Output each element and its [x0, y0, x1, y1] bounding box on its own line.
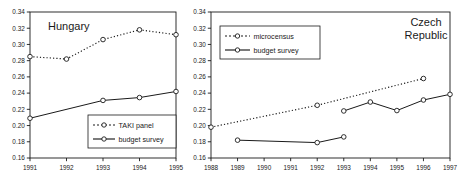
x-tick-label: 1996 [416, 164, 431, 171]
y-tick-label: 0.20 [193, 122, 206, 129]
x-axis: 1988198919901991199219931994199519961997 [204, 158, 458, 171]
chart-title: Hungary [48, 20, 90, 32]
legend-sample-marker [102, 137, 106, 141]
y-tick-label: 0.20 [12, 122, 25, 129]
legend-label: budget survey [119, 135, 165, 144]
data-point [137, 28, 142, 33]
y-tick-label: 0.16 [12, 154, 25, 161]
legend-sample-marker [235, 48, 239, 52]
chart-panel-hungary: 0.160.180.200.220.240.260.280.300.320.34… [0, 0, 184, 190]
y-tick-label: 0.30 [193, 41, 206, 48]
data-point [101, 37, 106, 42]
x-tick-label: 1995 [390, 164, 405, 171]
chart-title-text: Hungary [48, 20, 90, 32]
data-point [28, 116, 33, 121]
legend-sample-marker [102, 123, 106, 127]
chart-svg-czech-republic: 0.160.180.200.220.240.260.280.300.320.34… [178, 0, 458, 190]
y-tick-label: 0.26 [12, 73, 25, 80]
x-tick-label: 1994 [132, 164, 147, 171]
y-tick-label: 0.24 [193, 89, 206, 96]
y-tick-label: 0.22 [193, 106, 206, 113]
data-point [28, 54, 33, 59]
y-tick-label: 0.32 [193, 25, 206, 32]
data-point [395, 108, 400, 113]
data-point [315, 140, 320, 145]
chart-title: CzechRepublic [405, 16, 448, 41]
data-point [209, 125, 214, 130]
y-axis: 0.160.180.200.220.240.260.280.300.320.34 [12, 8, 30, 161]
data-point [137, 95, 142, 100]
x-tick-label: 1992 [59, 164, 74, 171]
x-tick-label: 1992 [310, 164, 325, 171]
data-point [64, 57, 69, 62]
y-tick-label: 0.16 [193, 154, 206, 161]
x-tick-label: 1991 [284, 164, 299, 171]
data-point [341, 109, 346, 114]
data-point [341, 135, 346, 140]
y-tick-label: 0.18 [12, 138, 25, 145]
x-tick-label: 1989 [230, 164, 245, 171]
x-tick-label: 1997 [443, 164, 458, 171]
data-point [101, 98, 106, 103]
x-tick-label: 1994 [363, 164, 378, 171]
x-tick-label: 1993 [337, 164, 352, 171]
legend-sample-marker [235, 34, 239, 38]
chart-panel-czech-republic: 0.160.180.200.220.240.260.280.300.320.34… [178, 0, 458, 190]
y-tick-label: 0.24 [12, 89, 25, 96]
series-budget-survey [235, 92, 452, 145]
chart-title-line1: Czech [410, 16, 441, 28]
x-tick-label: 1993 [96, 164, 111, 171]
legend-hungary[interactable]: TAKI panelbudget survey [88, 115, 176, 148]
y-tick-label: 0.18 [193, 138, 206, 145]
data-point [368, 100, 373, 105]
y-tick-label: 0.34 [12, 8, 25, 15]
legend-label: budget survey [254, 46, 300, 55]
data-point [421, 98, 426, 103]
x-tick-label: 1991 [23, 164, 38, 171]
y-tick-label: 0.28 [193, 57, 206, 64]
y-tick-label: 0.30 [12, 41, 25, 48]
y-tick-label: 0.34 [193, 8, 206, 15]
chart-svg-hungary: 0.160.180.200.220.240.260.280.300.320.34… [0, 0, 184, 190]
series-TAKI-panel [28, 28, 179, 62]
chart-title-line2: Republic [405, 29, 448, 41]
y-axis: 0.160.180.200.220.240.260.280.300.320.34 [193, 8, 211, 161]
series-line [30, 30, 176, 59]
x-tick-label: 1988 [204, 164, 219, 171]
legend-label: microcensus [254, 32, 295, 41]
series-line [238, 137, 344, 143]
data-point [315, 103, 320, 108]
legend-czech-republic[interactable]: microcensusbudget survey [220, 26, 320, 59]
y-tick-label: 0.22 [12, 106, 25, 113]
data-point [448, 92, 453, 97]
data-point [421, 76, 426, 81]
y-tick-label: 0.32 [12, 25, 25, 32]
x-tick-label: 1990 [257, 164, 272, 171]
series-line [30, 91, 176, 118]
x-axis: 19911992199319941995 [23, 158, 184, 171]
data-point [235, 138, 240, 143]
legend-label: TAKI panel [119, 121, 154, 130]
y-tick-label: 0.26 [193, 73, 206, 80]
figure-root: 0.160.180.200.220.240.260.280.300.320.34… [0, 0, 458, 190]
y-tick-label: 0.28 [12, 57, 25, 64]
series-microcensus [209, 76, 426, 129]
